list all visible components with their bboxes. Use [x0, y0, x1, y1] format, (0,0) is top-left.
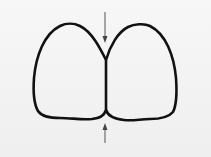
contact-diagram [0, 0, 211, 157]
right-tooth-outline [106, 24, 177, 120]
left-tooth-outline [34, 24, 106, 120]
bottom-arrow [103, 123, 108, 143]
top-arrow [103, 12, 108, 43]
diagram-canvas [0, 0, 211, 157]
